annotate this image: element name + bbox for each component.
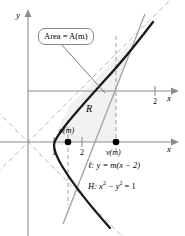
point-v-marker bbox=[113, 139, 120, 146]
area-callout-box: Area = A(m) bbox=[38, 28, 94, 45]
tick-label-2: 2 bbox=[80, 149, 84, 157]
hyperbola-area-figure: Area = A(m) y x x 1 2 2 u(m) v(m) R ℓ: y… bbox=[0, 0, 185, 236]
upper-x-axis-arrow-icon bbox=[171, 88, 179, 95]
hyperbola-eq-part1: H: x bbox=[88, 181, 103, 191]
hyperbola-eq-part3: = 1 bbox=[122, 181, 135, 191]
point-u-marker bbox=[65, 139, 72, 146]
hyperbola-equation-label: H: x2 − y2 = 1 bbox=[88, 181, 136, 190]
x-axis-label: x bbox=[167, 145, 171, 154]
point-label-u: u(m) bbox=[59, 127, 74, 135]
region-label-R: R bbox=[86, 104, 92, 114]
y-axis-label: y bbox=[16, 11, 20, 20]
y-axis-arrow-icon bbox=[25, 9, 32, 17]
tick-label-1: 1 bbox=[52, 149, 56, 157]
asymptote-positive-icon bbox=[0, 0, 173, 173]
line-equation-label: ℓ: y = m(x − 2) bbox=[88, 161, 140, 170]
upper-tick-label-2: 2 bbox=[153, 98, 157, 106]
hyperbola-eq-part2: − y bbox=[106, 181, 120, 191]
upper-x-axis-label: x bbox=[167, 94, 171, 103]
x-axis-arrow-icon bbox=[171, 139, 179, 146]
point-label-v: v(m) bbox=[106, 149, 121, 157]
area-callout-label: Area = A(m) bbox=[44, 31, 88, 41]
